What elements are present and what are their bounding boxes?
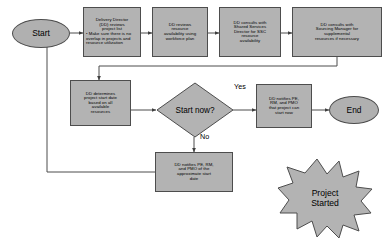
edge-label-yes: Yes xyxy=(234,82,246,91)
flowchart-canvas: Start Delivery Director (DD) reviews pro… xyxy=(0,0,391,244)
node-line: resources xyxy=(73,110,128,115)
node-line: Started xyxy=(311,198,339,208)
node-dd-consults-sourcing-manager[interactable]: DD consults with Sourcing Manager for su… xyxy=(292,7,382,57)
node-line: resources if necessary xyxy=(295,37,379,42)
node-start[interactable]: Start xyxy=(12,19,70,48)
edge-sourcing-to-determines xyxy=(99,57,337,80)
node-line: start now xyxy=(259,111,309,116)
node-start-now-decision[interactable]: Start now? xyxy=(156,82,234,138)
node-dd-notifies-can-start[interactable]: DD notifies PE, RM, and PMO that project… xyxy=(256,84,312,128)
node-line: workforce plan xyxy=(155,37,205,42)
node-project-started[interactable]: Project Started xyxy=(277,157,373,239)
node-dd-notifies-approximate-date[interactable]: DD notifies PE, RM, and PMO of the appro… xyxy=(155,152,233,192)
node-bullet: resource utilization xyxy=(86,41,138,46)
edge-label-no: No xyxy=(200,132,209,141)
node-project-started-label: Project Started xyxy=(277,157,373,239)
node-dd-reviews-resource-availability[interactable]: DD reviews resource availability using w… xyxy=(152,7,208,57)
node-line: availability xyxy=(222,39,278,44)
node-dd-consults-shared-services[interactable]: DD consults with Shared Services Directo… xyxy=(219,7,281,57)
node-line: date xyxy=(158,177,230,182)
node-end[interactable]: End xyxy=(329,96,379,124)
node-dd-determines-start-date[interactable]: DD determines project start date based o… xyxy=(70,80,131,126)
node-start-label: Start xyxy=(32,29,50,38)
node-line: Project xyxy=(312,188,339,198)
node-dd-reviews-project-list[interactable]: Delivery Director (DD) reviews project l… xyxy=(83,7,141,57)
node-end-label: End xyxy=(347,106,362,115)
node-start-now-label: Start now? xyxy=(156,82,234,138)
